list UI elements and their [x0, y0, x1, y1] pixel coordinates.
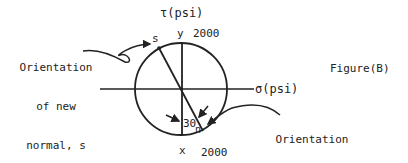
s-annotation-line2: of new: [16, 100, 96, 113]
n-point-label: n: [195, 124, 201, 135]
angle-arrow-left: [166, 115, 179, 121]
s-annotation: Orientation of new normal, s: [16, 35, 96, 163]
figure-title: Figure(B): [330, 62, 390, 75]
n-annotation-line1: Orientation: [272, 133, 352, 146]
sigma-axis-label: σ(psi): [255, 82, 298, 96]
y-value-label: 2000: [193, 27, 220, 40]
x-point-label: x: [179, 144, 186, 157]
s-point: [157, 46, 161, 50]
s-annotation-line3: normal, s: [16, 139, 96, 152]
s-annotation-line1: Orientation: [16, 61, 96, 74]
x-value-label: 2000: [201, 146, 228, 159]
s-point-label: s: [152, 32, 159, 45]
angle-arrow-right: [199, 106, 208, 117]
y-point-label: y: [177, 27, 184, 40]
n-annotation: Orientation of new normal,n: [272, 107, 352, 163]
tau-axis-label: τ(psi): [160, 6, 203, 20]
